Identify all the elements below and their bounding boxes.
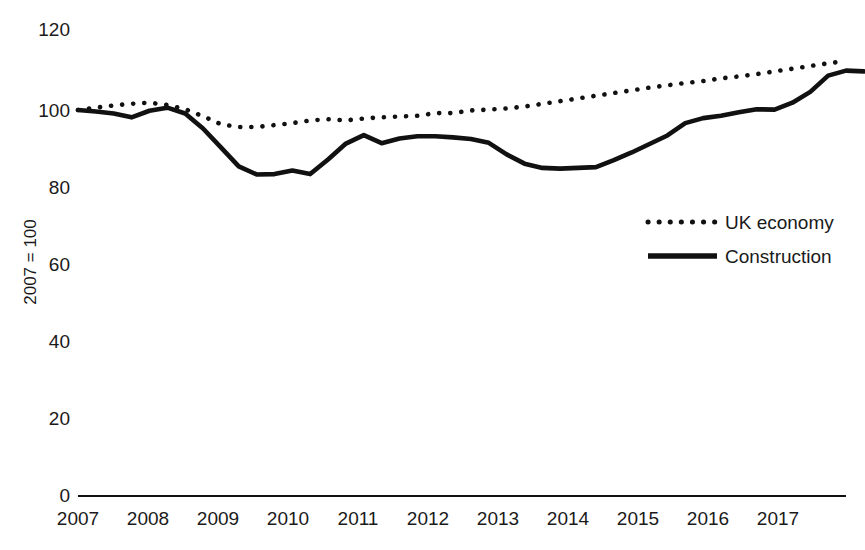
x-axis-tick-labels: 2007 2008 2009 2010 2011 2012 2013 2014 … [57,508,799,529]
x-tick-label-2009: 2009 [197,508,239,529]
x-tick-label-2012: 2012 [407,508,449,529]
y-tick-label-100: 100 [38,100,70,121]
x-tick-label-2011: 2011 [338,508,379,529]
y-tick-label-60: 60 [49,254,70,275]
line-chart: 120 100 80 60 40 20 0 2007 = 100 2007 20… [0,0,865,550]
x-tick-label-2016: 2016 [687,508,729,529]
x-tick-label-2017: 2017 [757,508,799,529]
y-tick-label-0: 0 [59,485,70,506]
series-line-construction [78,71,864,175]
x-tick-label-2013: 2013 [477,508,519,529]
legend-label-uk-economy: UK economy [725,212,834,233]
x-tick-label-2015: 2015 [617,508,659,529]
y-tick-label-40: 40 [49,331,70,352]
y-axis-tick-labels: 120 100 80 60 40 20 0 [38,19,70,506]
x-tick-label-2014: 2014 [547,508,590,529]
y-tick-label-20: 20 [49,408,70,429]
y-tick-label-120: 120 [38,19,70,40]
x-tick-label-2007: 2007 [57,508,99,529]
chart-legend: UK economy Construction [648,212,834,267]
chart-container: 120 100 80 60 40 20 0 2007 = 100 2007 20… [0,0,865,550]
y-axis-title: 2007 = 100 [21,219,40,305]
y-tick-label-80: 80 [49,177,70,198]
series-line-uk-economy [78,61,846,127]
x-tick-label-2008: 2008 [127,508,169,529]
legend-label-construction: Construction [725,246,832,267]
x-tick-label-2010: 2010 [267,508,309,529]
